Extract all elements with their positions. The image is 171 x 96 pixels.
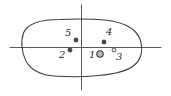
data-point-marker-1 [97, 51, 103, 57]
data-point-marker-5 [74, 38, 78, 42]
scatter-figure: 1 2 3 4 5 [0, 0, 171, 96]
figure-canvas [0, 0, 171, 96]
data-point-marker-2 [68, 48, 72, 52]
data-point-label-2: 2 [59, 50, 65, 60]
data-point-label-1: 1 [89, 50, 95, 60]
data-point-label-4: 4 [106, 27, 112, 37]
data-point-label-3: 3 [116, 52, 122, 62]
data-point-marker-4 [102, 40, 106, 44]
data-point-label-5: 5 [65, 28, 71, 38]
